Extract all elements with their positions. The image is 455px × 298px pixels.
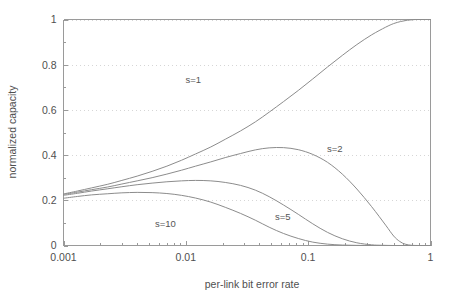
x-tick-label: 0.001 xyxy=(50,251,76,263)
y-axis-title: normalized capacity xyxy=(6,85,18,179)
series-label-s5: s=5 xyxy=(275,211,291,222)
series-label-s10: s=10 xyxy=(155,218,176,229)
x-axis-title: per-link bit error rate xyxy=(205,278,300,290)
series-label-s1: s=1 xyxy=(185,74,201,85)
y-tick-label: 0 xyxy=(51,239,57,251)
y-tick-label: 0.4 xyxy=(42,149,57,161)
series-label-s2: s=2 xyxy=(327,143,343,154)
x-tick-label: 0.01 xyxy=(176,251,197,263)
y-tick-label: 0.2 xyxy=(42,194,57,206)
line-chart: 0.0010.010.11 00.20.40.60.81 s=1s=2s=5s=… xyxy=(0,0,455,298)
y-tick-label: 1 xyxy=(51,13,57,25)
x-tick-label: 0.1 xyxy=(301,251,316,263)
y-tick-label: 0.8 xyxy=(42,59,57,71)
x-tick-label: 1 xyxy=(428,251,434,263)
chart-figure: 0.0010.010.11 00.20.40.60.81 s=1s=2s=5s=… xyxy=(0,0,455,298)
y-tick-label: 0.6 xyxy=(42,104,57,116)
